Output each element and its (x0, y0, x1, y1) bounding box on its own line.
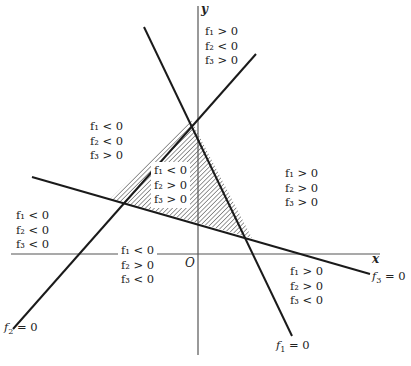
condition-f2: f₂ > 0 (154, 178, 187, 193)
region-right-conditions: f₁ > 0 f₂ > 0 f₃ > 0 (285, 166, 318, 210)
region-center-triangle-conditions: f₁ < 0 f₂ > 0 f₃ > 0 (151, 162, 190, 208)
condition-f1: f₁ > 0 (285, 166, 318, 181)
y-axis-label: y (201, 2, 208, 16)
condition-f2: f₂ < 0 (205, 39, 238, 54)
condition-f1: f₁ < 0 (16, 208, 49, 223)
region-far-left-conditions: f₁ < 0 f₂ < 0 f₃ < 0 (16, 208, 49, 252)
condition-f2: f₂ > 0 (285, 181, 318, 196)
region-top-conditions: f₁ > 0 f₂ < 0 f₃ > 0 (205, 24, 238, 68)
line-label-f2: f2 = 0 (4, 320, 38, 339)
region-lower-right-conditions: f₁ > 0 f₂ > 0 f₃ < 0 (290, 264, 323, 308)
condition-f1: f₁ > 0 (205, 24, 238, 39)
region-lower-middle-conditions: f₁ < 0 f₂ > 0 f₃ < 0 (118, 242, 157, 288)
condition-f3: f₃ < 0 (16, 237, 49, 252)
condition-f3: f₃ < 0 (121, 272, 154, 287)
line-label-f3: f3 = 0 (372, 269, 406, 288)
condition-f3: f₃ > 0 (154, 192, 187, 207)
condition-f1: f₁ < 0 (121, 243, 154, 258)
x-axis-label: x (372, 252, 379, 266)
condition-f1: f₁ < 0 (154, 163, 187, 178)
inequality-regions-diagram: y x O f2 = 0 f1 = 0 f3 = 0 f₁ > 0 f₂ < 0… (0, 0, 411, 366)
region-upper-left-conditions: f₁ < 0 f₂ < 0 f₃ > 0 (90, 119, 123, 163)
origin-label: O (185, 256, 195, 270)
condition-f2: f₂ < 0 (90, 134, 123, 149)
condition-f2: f₂ < 0 (16, 223, 49, 238)
condition-f3: f₃ > 0 (90, 148, 123, 163)
condition-f3: f₃ > 0 (205, 53, 238, 68)
line-label-f1: f1 = 0 (276, 338, 310, 357)
condition-f1: f₁ < 0 (90, 119, 123, 134)
condition-f3: f₃ > 0 (285, 195, 318, 210)
condition-f1: f₁ > 0 (290, 264, 323, 279)
condition-f3: f₃ < 0 (290, 293, 323, 308)
condition-f2: f₂ > 0 (121, 258, 154, 273)
condition-f2: f₂ > 0 (290, 279, 323, 294)
